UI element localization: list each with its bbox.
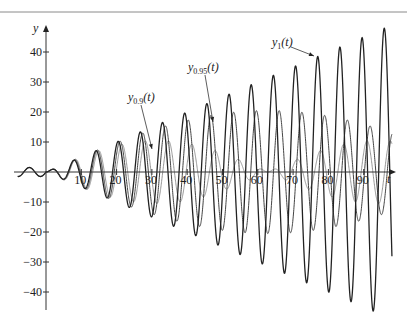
x-tick-label: 60 — [251, 173, 263, 187]
arrowhead-icon — [309, 52, 314, 56]
x-tick-label: 50 — [216, 173, 228, 187]
x-tick-label: 10 — [74, 173, 86, 187]
x-tick-label: 90 — [357, 173, 369, 187]
annotations-group: y0.9(t)y0.95(t)y1(t) — [127, 35, 314, 149]
x-tick-label: 70 — [286, 173, 298, 187]
x-tick-label: 40 — [180, 173, 192, 187]
curve-label: y0.9(t) — [127, 90, 155, 106]
y-axis-arrow-icon — [43, 25, 49, 32]
resonance-chart: t y 102030405060708090 40302010−10−20−30… — [0, 0, 407, 326]
y-tick-label: −40 — [23, 285, 42, 299]
curve-label: y1(t) — [271, 35, 293, 51]
x-tick-label: 80 — [321, 173, 333, 187]
x-tick-label: 20 — [110, 173, 122, 187]
y-axis-label: y — [32, 21, 39, 35]
y-tick-label: 10 — [30, 135, 42, 149]
y-tick-label: 40 — [30, 45, 42, 59]
curve-label: y0.95(t) — [187, 60, 219, 76]
y-tick-label: −20 — [23, 225, 42, 239]
y-tick-label: 20 — [30, 105, 42, 119]
x-tick-label: 30 — [145, 173, 157, 187]
y-tick-label: 30 — [30, 75, 42, 89]
y-tick-label: −10 — [23, 195, 42, 209]
y-tick-label: −30 — [23, 255, 42, 269]
